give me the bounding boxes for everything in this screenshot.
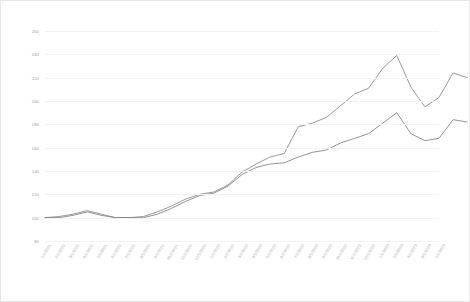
x-axis-tick-label: 1/1/2022 [208, 243, 221, 259]
y-axis-tick-label: 100 [32, 215, 39, 220]
gridline [45, 171, 439, 172]
x-axis-tick-label: 4/1/2021 [82, 243, 95, 259]
y-axis-tick-label: 220 [32, 75, 39, 80]
x-axis-tick-label: 9/1/2022 [321, 243, 334, 259]
y-axis-tick-label: 260 [32, 29, 39, 34]
x-axis-tick-label: 12/1/2022 [362, 243, 376, 261]
x-axis-tick-label: 12/1/2021 [193, 243, 207, 261]
x-axis-tick-label: 5/1/2021 [96, 243, 109, 259]
gridline [45, 78, 439, 79]
series-lines [45, 31, 439, 241]
series-line [45, 113, 467, 218]
y-axis-tick-label: 200 [32, 99, 39, 104]
x-axis-tick-label: 1/1/2023 [377, 243, 390, 259]
gridline [45, 101, 439, 102]
x-axis-tick-label: 5/1/2022 [265, 243, 278, 259]
x-axis-tick-label: 3/1/2022 [237, 243, 250, 259]
x-axis-tick-label: 11/1/2022 [348, 243, 362, 261]
line-chart: 26024022020018016014012010080 1/1/20212/… [0, 0, 470, 302]
x-axis-tick-label: 3/1/2021 [68, 243, 81, 259]
x-axis-tick-label: 2/1/2023 [391, 243, 404, 259]
x-axis-tick-label: 6/1/2022 [279, 243, 292, 259]
x-axis-tick-label: 8/1/2022 [307, 243, 320, 259]
x-axis-tick-label: 4/1/2023 [419, 243, 432, 259]
x-axis-tick-label: 7/1/2021 [124, 243, 137, 259]
x-axis-tick-label: 4/1/2022 [251, 243, 264, 259]
x-axis-tick-label: 6/1/2021 [110, 243, 123, 259]
y-axis-tick-label: 160 [32, 145, 39, 150]
x-axis-tick-label: 11/1/2021 [179, 243, 193, 261]
gridline [45, 218, 439, 219]
x-axis-tick-label: 10/1/2021 [165, 243, 179, 261]
x-axis: 1/1/20212/1/20213/1/20214/1/20215/1/2021… [45, 243, 439, 301]
gridline [45, 31, 439, 32]
x-axis-tick-label: 10/1/2022 [334, 243, 348, 261]
x-axis-tick-label: 3/1/2023 [405, 243, 418, 259]
y-axis-tick-label: 120 [32, 192, 39, 197]
y-axis-tick-label: 180 [32, 122, 39, 127]
gridline [45, 124, 439, 125]
x-axis-tick-label: 8/1/2021 [138, 243, 151, 259]
x-axis-tick-label: 2/1/2022 [222, 243, 235, 259]
plot-area [45, 31, 439, 241]
x-axis-tick-label: 7/1/2022 [293, 243, 306, 259]
gridline [45, 194, 439, 195]
y-axis-tick-label: 240 [32, 52, 39, 57]
x-axis-tick-label: 1/1/2021 [40, 243, 53, 259]
gridline [45, 54, 439, 55]
y-axis-tick-label: 140 [32, 169, 39, 174]
gridline [45, 241, 439, 242]
x-axis-tick-label: 2/1/2021 [54, 243, 67, 259]
y-axis-tick-label: 80 [34, 239, 39, 244]
gridline [45, 148, 439, 149]
x-axis-tick-label: 9/1/2021 [152, 243, 165, 259]
x-axis-tick-label: 5/1/2023 [434, 243, 447, 259]
